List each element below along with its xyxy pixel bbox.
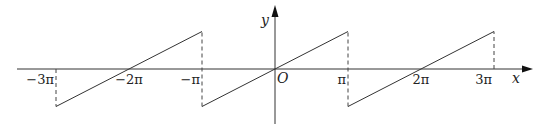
x-tick-label-3: −π (181, 72, 201, 87)
sawtooth-diagram: x y O −3π−2π−ππ2π3π (0, 0, 552, 129)
x-tick-label-1: −3π (26, 72, 54, 87)
x-tick-label-6: 3π (475, 72, 492, 87)
y-axis-label: y (260, 12, 270, 28)
x-axis-label: x (512, 70, 520, 86)
x-axis-arrow-icon (522, 66, 533, 73)
x-tick-label-2: −2π (115, 72, 143, 87)
x-tick-label-5: 2π (413, 72, 430, 87)
origin-label: O (277, 70, 289, 86)
x-tick-label-4: π (337, 72, 346, 87)
y-axis-arrow-icon (272, 5, 279, 17)
